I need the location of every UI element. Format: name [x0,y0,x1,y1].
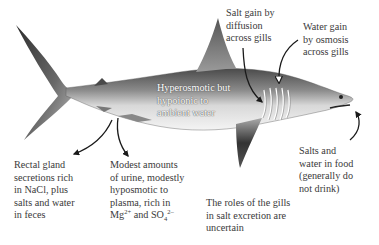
shark-eye [339,95,343,99]
label-line: Modest amounts [110,159,184,172]
label-line: secretions rich [14,172,75,185]
so4-charge: 2– [167,208,174,215]
label-line: diffusion [226,20,275,33]
rectal-gland-label: Rectal gland secretions rich in NaCl, pl… [14,159,75,222]
label-line: not drink) [299,183,353,196]
rectal-gland-arrow [74,120,112,154]
label-line: across gills [303,46,349,59]
pectoral-fin [236,118,262,168]
label-line: Salts and [299,145,353,158]
label-line: Rectal gland [14,159,75,172]
label-line: of urine, modestly [110,172,184,185]
label-line: hyposmotic to [110,184,184,197]
food-arrow [350,112,359,140]
body-label-line: hypoionic to [157,95,230,108]
label-line: Water gain [303,21,349,34]
caudal-fin [16,25,72,140]
urine-label: Modest amounts of urine, modestly hyposm… [110,159,184,222]
label-line: across gills [226,32,275,45]
label-line: uncertain [206,222,290,235]
water-gain-label: Water gain by osmosis across gills [303,21,349,59]
salt-gain-label: Salt gain by diffusion across gills [226,7,275,45]
body-label-line: ambient water [157,107,230,120]
body-condition-label: Hyperosmotic but hypoionic to ambient wa… [157,82,230,120]
urine-arrow [117,118,128,156]
label-line-ions: Mg2+ and SO42– [110,209,184,222]
label-line: salts and water [14,197,75,210]
label-line: in salt excretion are [206,210,290,223]
mg-text: Mg [110,209,124,220]
label-line: in NaCl, plus [14,184,75,197]
label-line: water in food [299,158,353,171]
label-line: The roles of the gills [206,197,290,210]
body-label-line: Hyperosmotic but [157,82,230,95]
food-label: Salts and water in food (generally do no… [299,145,353,195]
label-line: in feces [14,209,75,222]
so4-subscript: 4 [164,215,167,222]
label-line: (generally do [299,170,353,183]
label-line: by osmosis [303,34,349,47]
label-line: Salt gain by [226,7,275,20]
gills-role-label: The roles of the gills in salt excretion… [206,197,290,235]
shark-osmoregulation-diagram: Hyperosmotic but hypoionic to ambient wa… [0,0,379,245]
so-text: and SO [131,209,164,220]
